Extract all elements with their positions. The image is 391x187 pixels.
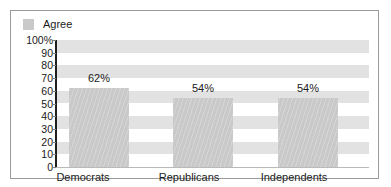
y-tick-100: 100% bbox=[26, 35, 53, 45]
y-tick-mark-80 bbox=[52, 65, 56, 66]
y-tick-mark-30 bbox=[52, 129, 56, 130]
bar-republicans[interactable] bbox=[173, 98, 233, 167]
legend-swatch-agree-icon bbox=[23, 19, 34, 30]
y-tick-mark-10 bbox=[52, 154, 56, 155]
chart-frame: Agree 100% 90 80 70 60 50 40 30 20 10 0 bbox=[10, 10, 379, 179]
bar-value-independents: 54% bbox=[278, 83, 338, 94]
x-category-democrats: Democrats bbox=[39, 171, 127, 183]
y-tick-mark-90 bbox=[52, 53, 56, 54]
bar-value-democrats: 62% bbox=[69, 73, 129, 84]
y-tick-mark-60 bbox=[52, 91, 56, 92]
y-tick-mark-100 bbox=[52, 40, 56, 41]
x-category-independents: Independents bbox=[250, 171, 338, 183]
bar-independents[interactable] bbox=[278, 98, 338, 167]
x-category-republicans: Republicans bbox=[145, 171, 233, 183]
y-tick-mark-20 bbox=[52, 142, 56, 143]
y-tick-mark-50 bbox=[52, 104, 56, 105]
x-axis-line bbox=[55, 167, 369, 168]
band-90-100 bbox=[57, 40, 369, 53]
bar-value-republicans: 54% bbox=[173, 83, 233, 94]
legend-label-agree: Agree bbox=[43, 19, 72, 30]
y-axis-tick-labels: 100% 90 80 70 60 50 40 30 20 10 0 bbox=[11, 40, 53, 167]
y-tick-mark-0 bbox=[52, 167, 56, 168]
plot-area: 62% 54% 54% bbox=[57, 40, 369, 167]
chart-legend: Agree bbox=[23, 16, 72, 32]
y-tick-mark-40 bbox=[52, 116, 56, 117]
y-tick-mark-70 bbox=[52, 78, 56, 79]
bar-democrats[interactable] bbox=[69, 88, 129, 167]
bar-chart-figure: Agree 100% 90 80 70 60 50 40 30 20 10 0 bbox=[0, 0, 391, 187]
